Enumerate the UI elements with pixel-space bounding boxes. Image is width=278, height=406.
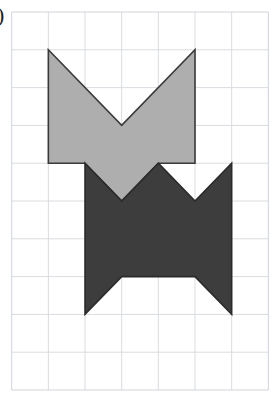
geometry-figure bbox=[0, 0, 278, 406]
figure-canvas: ) bbox=[0, 0, 278, 406]
